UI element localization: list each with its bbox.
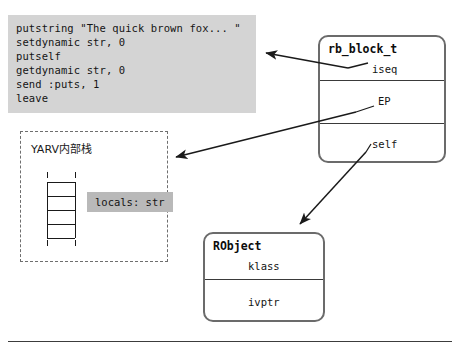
field-self: self [372, 138, 397, 150]
field-ivptr: ivptr [248, 296, 280, 308]
code-line-5: send :puts, 1 [16, 77, 256, 91]
ladder-rung [47, 210, 75, 211]
diagram-canvas: putstring "The quick brown fox... " setd… [0, 0, 460, 356]
ladder-stub-top-left [47, 172, 48, 178]
ladder-stub-bottom-right [75, 240, 76, 246]
field-klass: klass [248, 260, 280, 272]
stack-ladder-icon [47, 174, 77, 246]
bytecode-listing: putstring "The quick brown fox... " setd… [8, 15, 256, 113]
ladder-rung [47, 224, 75, 225]
robject-divider [205, 279, 323, 280]
ladder-rung [47, 196, 75, 197]
code-line-6: leave [16, 91, 256, 105]
rb-block-t-title: rb_block_t [328, 42, 397, 56]
yarv-stack-box: YARV内部栈 locals: str [20, 131, 168, 262]
yarv-stack-title: YARV内部栈 [31, 140, 92, 156]
code-line-4: getdynamic str, 0 [16, 63, 256, 77]
rb-block-t-divider [320, 123, 444, 124]
field-ep: EP [378, 95, 391, 107]
ladder-stub-top-right [75, 172, 76, 178]
field-iseq: iseq [372, 63, 397, 75]
ladder-rung [47, 238, 75, 239]
ladder-rail-right [75, 182, 76, 238]
rb-block-t-box: rb_block_t iseq EP self [318, 35, 446, 163]
code-line-2: setdynamic str, 0 [16, 35, 256, 49]
code-line-3: putself [16, 49, 256, 63]
ladder-rung [47, 182, 75, 183]
locals-chip: locals: str [87, 192, 173, 212]
rb-block-t-divider [320, 80, 444, 81]
ladder-stub-bottom-left [47, 240, 48, 246]
code-line-1: putstring "The quick brown fox... " [16, 21, 256, 35]
footer-rule [8, 341, 452, 342]
robject-title: RObject [213, 239, 261, 253]
robject-box: RObject klass ivptr [203, 232, 325, 322]
